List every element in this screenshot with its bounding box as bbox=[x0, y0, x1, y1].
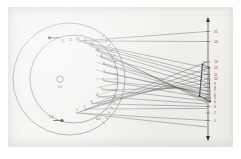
screen-label-15: 15 bbox=[214, 30, 218, 34]
screen-label-3: 3 bbox=[214, 105, 216, 109]
hub-circle bbox=[57, 76, 63, 82]
top-marker bbox=[48, 36, 60, 39]
dial-label-14: 14 bbox=[68, 38, 72, 42]
dial-label-15: 15 bbox=[61, 39, 65, 43]
screen-label-4: 4 bbox=[214, 100, 216, 104]
figure-container: 0,0 15 14 13 12 11 bbox=[0, 0, 241, 159]
bottom-right-label: 0,0 bbox=[96, 117, 101, 121]
screen-label-13: 13 bbox=[214, 60, 218, 64]
hub-caption: 0,0 bbox=[58, 85, 63, 89]
dial-label-2: 2 bbox=[83, 105, 85, 109]
bottom-left-label: 1,2 bbox=[49, 115, 54, 119]
diagram-svg: 0,0 15 14 13 12 11 bbox=[0, 0, 241, 159]
screen-label-11: 11 bbox=[214, 73, 218, 77]
screen-label-12: 12 bbox=[214, 66, 218, 70]
screen-label-10: 10 bbox=[214, 77, 218, 81]
caustic-label-b: b bbox=[204, 69, 206, 73]
bottom-marker bbox=[53, 119, 64, 122]
dial-tick-labels: 15 14 13 12 11 10 9 8 7 6 5 4 3 2 1 bbox=[61, 37, 105, 112]
axis-top-arrowhead bbox=[206, 17, 210, 22]
screen-label-2: 2 bbox=[214, 111, 216, 115]
screen-label-14: 14 bbox=[214, 40, 218, 44]
axis-bottom-arrowhead bbox=[206, 136, 210, 141]
ray-bundle bbox=[76, 32, 207, 128]
dial-label-1: 1 bbox=[76, 108, 78, 112]
dial-label-6: 6 bbox=[102, 78, 104, 82]
screen-label-1: 1 bbox=[214, 119, 216, 123]
screen-tick-labels: 15 14 13 12 11 10 9 8 7 6 5 4 3 2 1 bbox=[214, 30, 218, 123]
dial-label-13: 13 bbox=[76, 37, 80, 41]
